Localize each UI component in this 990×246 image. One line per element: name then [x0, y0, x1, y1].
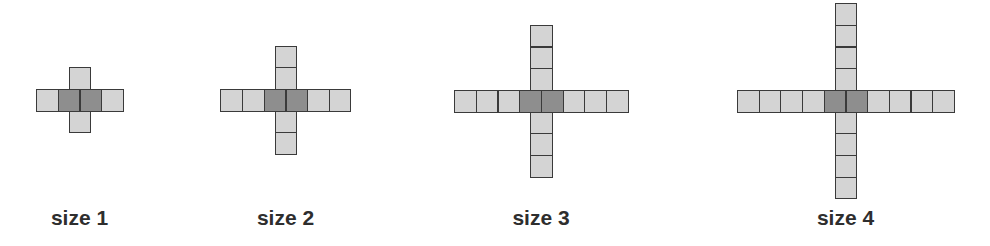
row-cell: [606, 90, 629, 113]
cross-stencil-diagram: size 1 size 2 size 3 size 4: [0, 0, 990, 246]
label-size-1: size 1: [20, 206, 140, 230]
center-cell: [58, 89, 81, 112]
arm-down-cell: [530, 155, 553, 178]
row-cell: [889, 90, 912, 113]
arm-up-cell: [530, 68, 553, 91]
arm-up-cell: [835, 68, 858, 91]
arm-up-cell: [835, 25, 858, 48]
row-cell: [759, 90, 782, 113]
arm-up-cell: [69, 67, 92, 90]
row-cell: [737, 90, 760, 113]
row-cell: [780, 90, 803, 113]
arm-down-cell: [835, 177, 858, 200]
row-cell: [307, 89, 330, 112]
row-cell: [563, 90, 586, 113]
row-cell: [36, 89, 59, 112]
center-cell: [846, 90, 869, 113]
row-cell: [101, 89, 124, 112]
center-cell: [541, 90, 564, 113]
arm-up-cell: [275, 67, 298, 90]
row-cell: [584, 90, 607, 113]
label-size-2: size 2: [226, 206, 346, 230]
arm-up-cell: [530, 25, 553, 48]
row-cell: [932, 90, 955, 113]
center-cell: [264, 89, 287, 112]
center-cell: [824, 90, 847, 113]
label-size-3: size 3: [481, 206, 601, 230]
row-cell: [242, 89, 265, 112]
row-cell: [911, 90, 934, 113]
row-cell: [329, 89, 352, 112]
arm-down-cell: [835, 155, 858, 178]
arm-down-cell: [69, 111, 92, 134]
label-size-4: size 4: [786, 206, 906, 230]
row-cell: [454, 90, 477, 113]
center-cell: [80, 89, 103, 112]
arm-down-cell: [275, 132, 298, 155]
row-cell: [220, 89, 243, 112]
arm-up-cell: [275, 46, 298, 69]
row-cell: [476, 90, 499, 113]
center-cell: [519, 90, 542, 113]
arm-down-cell: [835, 133, 858, 156]
arm-up-cell: [530, 47, 553, 70]
arm-down-cell: [530, 112, 553, 135]
arm-up-cell: [835, 47, 858, 70]
row-cell: [802, 90, 825, 113]
row-cell: [498, 90, 521, 113]
arm-down-cell: [530, 133, 553, 156]
arm-up-cell: [835, 3, 858, 26]
row-cell: [867, 90, 890, 113]
arm-down-cell: [275, 111, 298, 134]
arm-down-cell: [835, 112, 858, 135]
center-cell: [286, 89, 309, 112]
